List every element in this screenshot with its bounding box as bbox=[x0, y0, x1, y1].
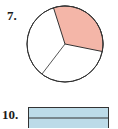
problem-10-rectangle-figure bbox=[29, 108, 109, 129]
problem-10-number: 10. bbox=[2, 108, 18, 121]
problem-7-circle-figure bbox=[27, 6, 103, 82]
